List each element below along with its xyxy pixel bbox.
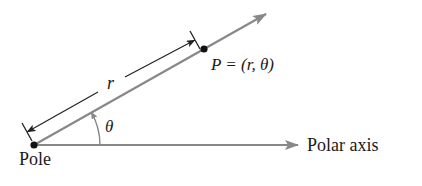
dimension-tick-start <box>22 123 32 141</box>
point-p-label: P = (r, θ) <box>211 56 274 73</box>
pole-label: Pole <box>19 150 51 168</box>
radius-label: r <box>107 74 114 92</box>
polar-axis-label: Polar axis <box>307 136 379 154</box>
pole-point <box>30 141 37 148</box>
polar-coordinate-diagram: Pole Polar axis P = (r, θ) r θ <box>0 0 422 186</box>
dimension-tick-end <box>190 31 200 49</box>
diagram-graphics <box>0 0 422 186</box>
point-p <box>200 45 207 52</box>
angle-theta-label: θ <box>105 118 113 135</box>
angle-arc <box>92 113 101 145</box>
radius-ray-line <box>34 14 266 145</box>
